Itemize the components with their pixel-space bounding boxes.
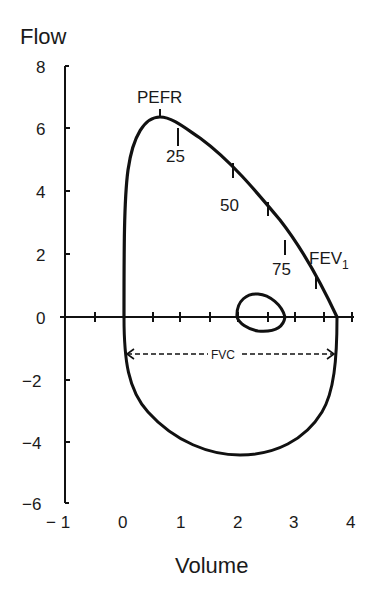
x-axis-title: Volume xyxy=(175,553,248,578)
svg-text:−4: −4 xyxy=(22,434,41,453)
inspiratory-limb xyxy=(124,317,337,455)
svg-text:2: 2 xyxy=(36,246,45,265)
svg-text:3: 3 xyxy=(289,513,298,532)
percent-50-label: 50 xyxy=(220,196,239,215)
expiratory-limb xyxy=(124,117,337,317)
svg-text:− 1: − 1 xyxy=(46,513,70,532)
fvc-label: FVC xyxy=(211,348,235,362)
fev1-label: FEV1 xyxy=(309,249,349,272)
svg-text:0: 0 xyxy=(36,309,45,328)
percent-75-label: 75 xyxy=(272,260,291,279)
svg-text:1: 1 xyxy=(176,513,185,532)
flow-volume-chart: Flow Volume 8 6 4 2 0 −2 −4 −6 − 1 0 xyxy=(0,0,381,603)
y-tick-labels: 8 6 4 2 0 −2 −4 −6 xyxy=(22,58,45,514)
svg-text:4: 4 xyxy=(346,513,355,532)
y-axis xyxy=(65,66,70,503)
x-axis xyxy=(60,312,354,322)
tidal-breathing-loop xyxy=(237,294,285,331)
pefr-label: PEFR xyxy=(137,88,182,107)
x-tick-labels: − 1 0 1 2 3 4 xyxy=(46,513,355,532)
svg-text:−2: −2 xyxy=(22,372,41,391)
svg-text:2: 2 xyxy=(233,513,242,532)
svg-text:6: 6 xyxy=(36,120,45,139)
svg-text:−6: −6 xyxy=(22,495,41,514)
percent-25-label: 25 xyxy=(166,147,185,166)
svg-text:8: 8 xyxy=(36,58,45,77)
svg-text:0: 0 xyxy=(118,513,127,532)
y-axis-title: Flow xyxy=(20,24,67,49)
svg-text:4: 4 xyxy=(36,183,45,202)
